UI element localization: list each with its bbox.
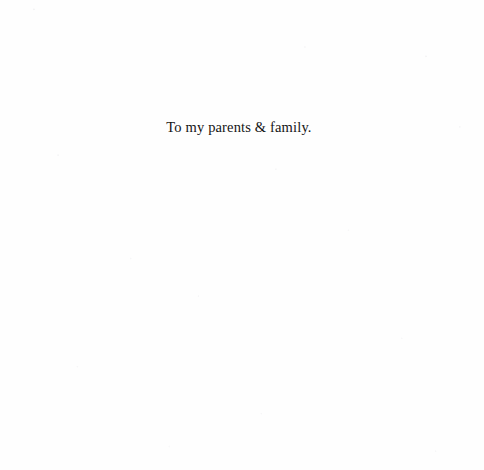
dedication-block: To my parents & family. [0, 118, 484, 136]
dedication-text: To my parents & family. [166, 118, 311, 136]
scanned-book-page: To my parents & family. [0, 0, 484, 470]
paper-grain-texture [0, 0, 484, 470]
